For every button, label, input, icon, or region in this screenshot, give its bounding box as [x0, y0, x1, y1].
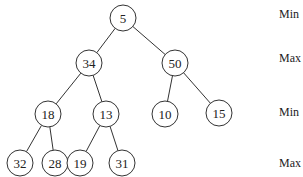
- node-value: 10: [159, 107, 172, 122]
- node-value: 18: [42, 107, 55, 122]
- node-value: 19: [74, 156, 87, 171]
- min-max-heap-diagram: 534501813101532281931 Min Max Min Max: [0, 0, 303, 177]
- heap-node: 15: [206, 100, 232, 126]
- node-value: 34: [83, 56, 97, 71]
- edge-n4-n10: [110, 126, 118, 150]
- heap-node: 10: [152, 101, 178, 127]
- level-label-1: Max: [279, 51, 301, 65]
- node-value: 28: [49, 156, 62, 171]
- node-value: 15: [213, 106, 226, 121]
- heap-node: 5: [110, 5, 136, 31]
- node-value: 5: [120, 11, 127, 26]
- heap-node: 31: [109, 150, 135, 176]
- edge-n1-n3: [56, 73, 81, 104]
- heap-node: 18: [35, 101, 61, 127]
- heap-node: 32: [7, 150, 33, 176]
- node-value: 32: [14, 156, 27, 171]
- level-label-0: Min: [279, 7, 299, 21]
- level-label-3: Max: [279, 156, 301, 170]
- nodes-group: 534501813101532281931: [7, 5, 232, 176]
- heap-node: 34: [76, 50, 102, 76]
- level-labels-group: Min Max Min Max: [279, 7, 301, 170]
- node-value: 50: [169, 56, 182, 71]
- edge-n1-n4: [93, 75, 102, 101]
- heap-node: 19: [67, 150, 93, 176]
- heap-node: 50: [162, 50, 188, 76]
- edge-n3-n7: [26, 125, 41, 151]
- edge-n0-n1: [97, 28, 115, 52]
- edge-n4-n9: [86, 125, 100, 151]
- edge-n2-n5: [168, 76, 173, 101]
- node-value: 31: [116, 156, 129, 171]
- edge-n0-n2: [133, 27, 165, 55]
- edge-n3-n8: [50, 127, 53, 150]
- heap-node: 28: [42, 150, 68, 176]
- node-value: 13: [100, 107, 113, 122]
- edge-n2-n6: [184, 73, 211, 103]
- edges-group: [26, 27, 210, 152]
- level-label-2: Min: [279, 105, 299, 119]
- heap-node: 13: [93, 101, 119, 127]
